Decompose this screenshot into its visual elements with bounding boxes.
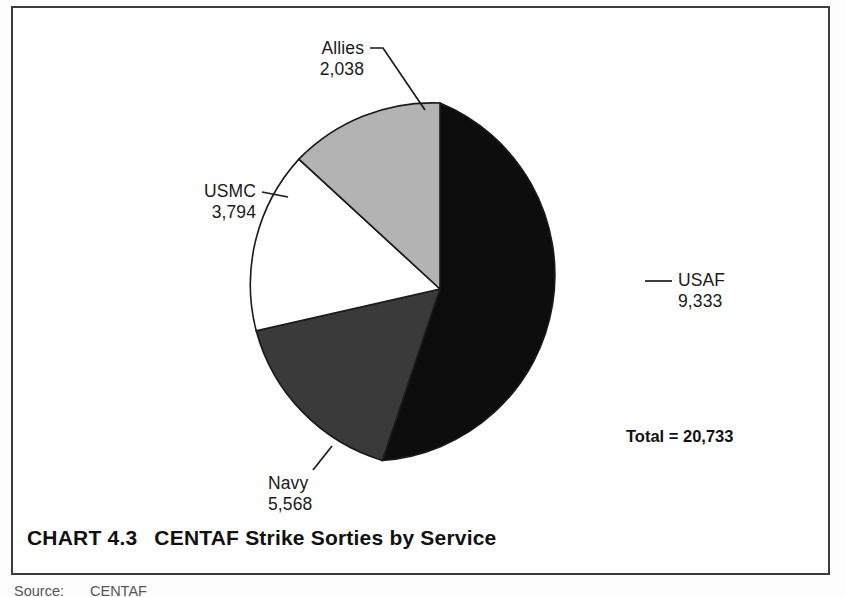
pie-chart-figure: Allies 2,038 USMC 3,794 Navy 5,568 USAF … (0, 0, 845, 597)
pie-label-usmc-name: USMC (204, 181, 256, 201)
pie-label-navy: Navy 5,568 (268, 473, 358, 515)
pie-label-usmc: USMC 3,794 (170, 181, 256, 223)
leader-line-navy (313, 446, 332, 470)
source-value: CENTAF (90, 583, 147, 597)
pie-label-allies: Allies 2,038 (278, 38, 364, 80)
source-label: Source: (14, 583, 64, 597)
source-note: Source:CENTAF (14, 583, 147, 597)
pie-label-usaf: USAF 9,333 (678, 270, 788, 312)
leader-line-allies (370, 48, 425, 110)
pie-label-navy-name: Navy (268, 473, 308, 493)
chart-title-text: CENTAF Strike Sorties by Service (154, 526, 496, 549)
chart-title-number: CHART 4.3 (27, 526, 137, 549)
total-annotation: Total = 20,733 (626, 427, 733, 446)
pie-label-allies-name: Allies (322, 38, 364, 58)
pie-label-usaf-value: 9,333 (678, 291, 788, 312)
chart-title: CHART 4.3CENTAF Strike Sorties by Servic… (27, 526, 496, 550)
pie-label-usaf-name: USAF (678, 270, 725, 290)
pie-label-usmc-value: 3,794 (170, 202, 256, 223)
pie-label-allies-value: 2,038 (278, 59, 364, 80)
pie-label-navy-value: 5,568 (268, 494, 358, 515)
